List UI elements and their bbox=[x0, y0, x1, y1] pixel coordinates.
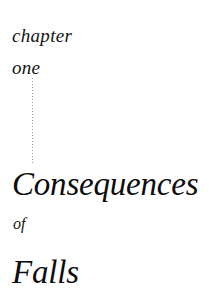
chapter-title-line-1: Consequences bbox=[12, 168, 198, 201]
chapter-opening-page: chapter one Consequences of Falls bbox=[0, 0, 209, 304]
vertical-dotted-divider bbox=[32, 78, 33, 164]
chapter-number-word: one bbox=[12, 58, 40, 77]
chapter-title-line-3: Falls bbox=[12, 256, 79, 289]
chapter-label-word: chapter bbox=[12, 26, 72, 45]
chapter-title-line-2: of bbox=[13, 216, 25, 232]
